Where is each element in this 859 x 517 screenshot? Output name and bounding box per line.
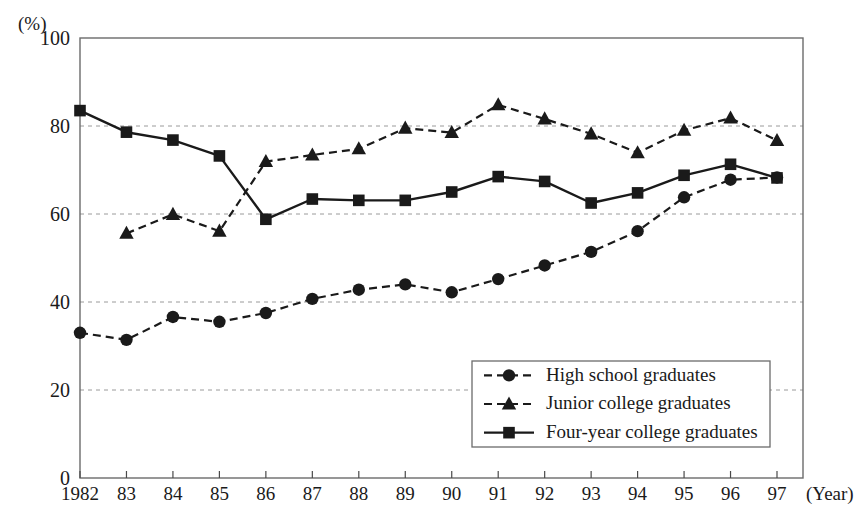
data-point <box>214 150 226 162</box>
chart-container: 020406080100 198283848586878889909192939… <box>0 0 859 517</box>
data-point <box>678 191 690 203</box>
series-line-2 <box>80 111 777 220</box>
chart-legend: High school graduatesJunior college grad… <box>472 361 770 447</box>
data-point <box>213 316 225 328</box>
legend-marker-square <box>503 427 515 439</box>
data-point <box>724 173 736 185</box>
data-point <box>678 169 690 181</box>
data-point <box>446 186 458 198</box>
data-point <box>166 207 180 220</box>
data-point <box>492 171 504 183</box>
data-point <box>630 145 644 158</box>
x-tick-label: 89 <box>396 483 415 504</box>
data-point <box>399 195 411 207</box>
y-tick-label: 60 <box>50 203 70 225</box>
x-tick-label: 94 <box>628 483 648 504</box>
data-point <box>167 311 179 323</box>
data-point <box>632 187 644 199</box>
data-point <box>725 158 737 170</box>
y-axis-tick-labels: 020406080100 <box>40 27 70 489</box>
data-point <box>353 195 365 207</box>
data-point <box>585 246 597 258</box>
series-1 <box>119 97 784 239</box>
data-point <box>121 126 133 138</box>
data-point <box>260 307 272 319</box>
x-tick-label: 87 <box>303 483 322 504</box>
y-axis-unit-label: (%) <box>18 13 46 35</box>
x-tick-label: 97 <box>768 483 787 504</box>
x-tick-label: 88 <box>349 483 368 504</box>
x-tick-label: 86 <box>256 483 275 504</box>
y-tick-label: 20 <box>50 379 70 401</box>
data-point <box>74 327 86 339</box>
series-2 <box>74 105 783 225</box>
data-point <box>539 176 551 188</box>
data-point <box>492 273 504 285</box>
data-point <box>723 110 737 123</box>
data-point <box>771 172 783 184</box>
data-point <box>677 123 691 136</box>
data-point <box>260 213 272 225</box>
x-tick-label: 93 <box>582 483 601 504</box>
data-point <box>352 141 366 154</box>
data-point <box>306 293 318 305</box>
data-point <box>631 225 643 237</box>
legend-label: Four-year college graduates <box>546 421 758 442</box>
series-0 <box>74 171 783 346</box>
y-tick-label: 40 <box>50 291 70 313</box>
x-tick-label: 84 <box>163 483 183 504</box>
x-tick-label: 96 <box>721 483 740 504</box>
x-tick-label: 85 <box>210 483 229 504</box>
data-point <box>307 193 319 205</box>
legend-label: High school graduates <box>546 364 716 385</box>
grid-layer <box>80 126 803 390</box>
data-point <box>538 259 550 271</box>
tick-marks-layer <box>80 471 777 478</box>
x-axis-unit-label: (Year) <box>806 483 854 505</box>
x-tick-label: 90 <box>442 483 461 504</box>
series-layer <box>74 97 784 346</box>
data-point <box>770 133 784 146</box>
data-point <box>446 286 458 298</box>
x-axis-tick-labels: 1982838485868788899091929394959697 <box>61 483 787 504</box>
data-point <box>353 283 365 295</box>
x-tick-label: 95 <box>675 483 694 504</box>
x-tick-label: 91 <box>489 483 508 504</box>
series-line-0 <box>80 178 777 340</box>
x-tick-label: 83 <box>117 483 136 504</box>
y-tick-label: 80 <box>50 115 70 137</box>
data-point <box>120 334 132 346</box>
data-point <box>398 121 412 134</box>
data-point <box>399 278 411 290</box>
data-point <box>167 134 179 146</box>
x-tick-label: 1982 <box>61 483 99 504</box>
data-point <box>491 97 505 110</box>
line-chart: 020406080100 198283848586878889909192939… <box>0 0 859 517</box>
legend-label: Junior college graduates <box>546 392 731 413</box>
legend-marker-circle <box>503 369 515 381</box>
x-tick-label: 92 <box>535 483 554 504</box>
data-point <box>585 197 597 209</box>
data-point <box>74 105 86 117</box>
